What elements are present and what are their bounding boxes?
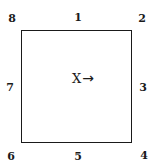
center-cell-label: X → <box>72 71 94 85</box>
position-label-right-center: 3 <box>139 82 147 93</box>
neighborhood-diagram: 1 2 3 4 5 6 7 8 X → <box>0 0 155 168</box>
position-label-bottom-left: 6 <box>7 151 15 162</box>
right-arrow-icon: → <box>82 71 94 85</box>
position-label-bottom-right: 4 <box>140 150 148 161</box>
position-label-top-left: 8 <box>8 13 16 24</box>
position-label-left-center: 7 <box>6 82 14 93</box>
cell-square <box>21 30 132 143</box>
position-label-top-center: 1 <box>74 12 82 23</box>
center-symbol: X <box>72 72 81 85</box>
position-label-top-right: 2 <box>138 13 146 24</box>
position-label-bottom-center: 5 <box>74 151 82 162</box>
